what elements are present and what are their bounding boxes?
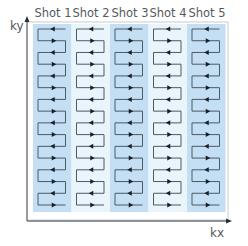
shot-3-label: Shot 3 [110,6,150,20]
shot-1-label: Shot 1 [33,6,73,20]
ky-axis-label: ky [10,19,24,33]
diagram-canvas [0,0,248,246]
y-axis-arrowhead-icon [25,16,30,22]
shot-4-label: Shot 4 [148,6,188,20]
kx-axis-label: kx [210,226,224,240]
shot-2-label: Shot 2 [71,6,111,20]
shot-5-label: Shot 5 [187,6,227,20]
x-axis-arrowhead-icon [226,219,232,224]
